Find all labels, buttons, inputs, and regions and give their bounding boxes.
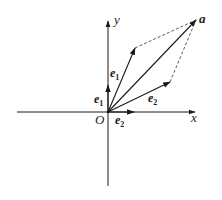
e1-unit-label-sub: 1: [99, 99, 103, 108]
diagram-canvas: [0, 0, 222, 200]
x-axis-label: x: [191, 111, 197, 124]
e1-scaled-label-sub: 1: [115, 73, 119, 82]
e2-scaled-label: e2: [148, 92, 157, 107]
dashed-line-right: [170, 20, 196, 82]
origin-point: [107, 111, 109, 113]
vector-e2-scaled: [108, 82, 170, 112]
e2-unit-label: e2: [115, 114, 124, 129]
e2-scaled-label-sub: 2: [153, 98, 157, 107]
origin-label: O: [95, 113, 104, 126]
vector-a-label-text: a: [199, 11, 206, 26]
e1-unit-label: e1: [94, 93, 103, 108]
e1-scaled-label: e1: [110, 67, 119, 82]
dashed-line-top: [135, 20, 196, 48]
y-axis-label: y: [114, 13, 120, 26]
vector-a-label: a: [199, 12, 206, 25]
e2-unit-label-sub: 2: [120, 120, 124, 129]
